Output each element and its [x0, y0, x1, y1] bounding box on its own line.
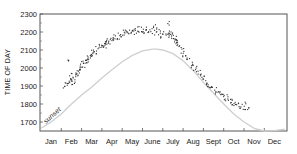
data-point: [163, 31, 164, 32]
data-point: [247, 109, 248, 110]
data-point: [68, 60, 69, 61]
y-axis-title: TIME OF DAY: [4, 49, 11, 96]
data-point: [100, 47, 101, 48]
data-point: [96, 53, 97, 54]
data-point: [69, 75, 70, 76]
x-tick-label: Nov: [247, 137, 261, 146]
data-point: [123, 30, 124, 31]
data-point: [168, 32, 169, 33]
data-point: [101, 46, 102, 47]
data-point: [92, 53, 93, 54]
data-point: [172, 34, 173, 35]
data-point: [160, 38, 161, 39]
data-point: [171, 31, 172, 32]
data-point: [182, 56, 183, 57]
data-point: [156, 27, 157, 28]
data-point: [200, 70, 201, 71]
data-point: [224, 95, 225, 96]
y-tick-label: 2300: [20, 10, 37, 19]
data-point: [86, 62, 87, 63]
data-point: [160, 37, 161, 38]
data-point: [135, 28, 136, 29]
data-point: [74, 83, 75, 84]
data-point: [92, 55, 93, 56]
data-point: [133, 31, 134, 32]
data-point: [121, 36, 122, 37]
data-point: [128, 33, 129, 34]
data-point: [232, 104, 233, 105]
data-point: [230, 99, 231, 100]
data-point: [195, 69, 196, 70]
data-point: [169, 25, 170, 26]
data-point: [94, 51, 95, 52]
data-point: [153, 26, 154, 27]
observation-points: [63, 21, 250, 110]
data-point: [141, 27, 142, 28]
x-tick-label: Aug: [186, 137, 199, 146]
y-tick-label: 1700: [20, 118, 37, 127]
data-point: [108, 43, 109, 44]
data-point: [165, 33, 166, 34]
data-point: [159, 29, 160, 30]
data-point: [160, 31, 161, 32]
data-point: [99, 44, 100, 45]
data-point: [172, 33, 173, 34]
data-point: [152, 28, 153, 29]
data-point: [107, 38, 108, 39]
data-point: [169, 35, 170, 36]
data-point: [153, 27, 154, 28]
data-point: [99, 45, 100, 46]
data-point: [150, 31, 151, 32]
data-point: [210, 87, 211, 88]
data-point: [206, 84, 207, 85]
data-point: [85, 63, 86, 64]
data-point: [227, 96, 228, 97]
data-point: [238, 103, 239, 104]
data-point: [146, 29, 147, 30]
data-point: [117, 38, 118, 39]
data-point: [105, 44, 106, 45]
data-point: [113, 38, 114, 39]
data-point: [138, 31, 139, 32]
data-point: [212, 87, 213, 88]
data-point: [181, 47, 182, 48]
data-point: [158, 34, 159, 35]
data-point: [187, 58, 188, 59]
data-point: [69, 82, 70, 83]
data-point: [146, 27, 147, 28]
y-tick-label: 2000: [20, 64, 37, 73]
data-point: [169, 31, 170, 32]
data-point: [73, 78, 74, 79]
data-point: [91, 50, 92, 51]
data-point: [90, 55, 91, 56]
data-point: [173, 35, 174, 36]
data-point: [105, 43, 106, 44]
y-tick-label: 1800: [20, 100, 37, 109]
data-point: [88, 59, 89, 60]
data-point: [111, 40, 112, 41]
data-point: [75, 76, 76, 77]
data-point: [170, 34, 171, 35]
x-tick-label: Dec: [268, 137, 282, 146]
data-point: [169, 21, 170, 22]
data-point: [211, 86, 212, 87]
data-point: [75, 73, 76, 74]
data-point: [122, 35, 123, 36]
sunset-curve: [41, 49, 285, 131]
data-point: [181, 53, 182, 54]
data-point: [109, 43, 110, 44]
data-point: [176, 36, 177, 37]
data-point: [135, 30, 136, 31]
data-point: [106, 47, 107, 48]
y-tick-label: 2200: [20, 28, 37, 37]
data-point: [106, 40, 107, 41]
x-tick-label: June: [144, 137, 160, 146]
data-point: [201, 77, 202, 78]
data-point: [91, 54, 92, 55]
data-point: [219, 92, 220, 93]
data-point: [85, 60, 86, 61]
data-point: [234, 103, 235, 104]
data-point: [245, 103, 246, 104]
data-point: [216, 92, 217, 93]
data-point: [99, 47, 100, 48]
